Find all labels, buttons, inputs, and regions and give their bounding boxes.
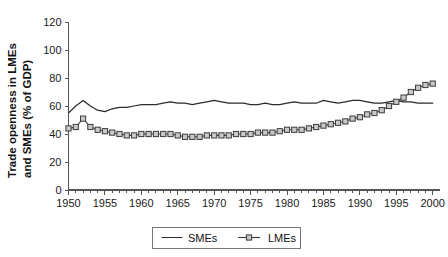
lme-data-marker (401, 95, 406, 100)
x-tick-label: 1985 (311, 197, 335, 209)
chart-axes (69, 22, 441, 190)
lme-data-marker (168, 131, 173, 136)
lme-data-marker (212, 133, 217, 138)
chart-figure: Trade openness in LMEs and SMEs (% of GD… (0, 0, 448, 257)
chart-ticks (65, 22, 433, 195)
lme-data-marker (416, 85, 421, 90)
legend-label-lmes: LMEs (268, 232, 297, 244)
x-tick-label: 1975 (238, 197, 262, 209)
lme-data-marker (394, 99, 399, 104)
x-tick-label: 1960 (129, 197, 153, 209)
lme-data-marker (226, 133, 231, 138)
lme-data-marker (241, 131, 246, 136)
x-tick-label: 1970 (202, 197, 226, 209)
lme-data-marker (284, 127, 289, 132)
lme-data-marker (263, 130, 268, 135)
lme-data-marker (66, 126, 71, 131)
lme-data-marker (379, 108, 384, 113)
lme-data-marker (277, 129, 282, 134)
lme-data-marker (292, 127, 297, 132)
series-line-lmes (69, 84, 433, 137)
lme-data-marker (153, 131, 158, 136)
lme-data-marker (95, 127, 100, 132)
x-tick-label: 1955 (93, 197, 117, 209)
y-axis-label-group: Trade openness in LMEs and SMEs (% of GD… (6, 43, 33, 178)
lme-data-marker (314, 124, 319, 129)
lme-data-marker (190, 134, 195, 139)
lme-data-marker (255, 130, 260, 135)
x-tick-label: 1980 (275, 197, 299, 209)
lme-data-marker (423, 82, 428, 87)
lme-data-marker (197, 134, 202, 139)
y-tick-label: 60 (49, 100, 61, 112)
y-tick-label: 120 (43, 16, 61, 28)
lme-data-marker (430, 81, 435, 86)
lme-data-marker (365, 112, 370, 117)
x-tick-label: 1950 (56, 197, 80, 209)
lme-data-marker (110, 130, 115, 135)
lme-data-marker (124, 133, 129, 138)
lme-data-marker (117, 131, 122, 136)
x-tick-label: 1990 (348, 197, 372, 209)
y-tick-label: 40 (49, 128, 61, 140)
y-tick-label: 0 (55, 184, 61, 196)
lme-data-marker (270, 130, 275, 135)
lme-data-marker (372, 110, 377, 115)
lme-data-marker (350, 116, 355, 121)
lme-data-marker (321, 123, 326, 128)
lme-data-marker (248, 131, 253, 136)
lme-data-marker (386, 103, 391, 108)
lme-data-marker (204, 133, 209, 138)
lme-data-marker (299, 127, 304, 132)
x-tick-label: 2000 (420, 197, 444, 209)
lme-data-marker (102, 129, 107, 134)
lme-data-marker (408, 89, 413, 94)
lme-data-marker (357, 115, 362, 120)
x-tick-label: 1965 (166, 197, 190, 209)
lme-data-marker (73, 124, 78, 129)
lme-data-marker (233, 131, 238, 136)
lme-data-marker (146, 131, 151, 136)
lme-data-marker (182, 134, 187, 139)
y-tick-label: 20 (49, 156, 61, 168)
chart-plot-area (66, 81, 435, 139)
lme-data-marker (175, 133, 180, 138)
y-tick-label: 100 (43, 44, 61, 56)
lme-data-marker (131, 133, 136, 138)
legend-swatch-lmes-marker (246, 235, 251, 240)
lme-data-marker (335, 120, 340, 125)
y-axis-label-line-2: and SMEs (% of GDP) (21, 60, 33, 178)
lme-data-marker (161, 131, 166, 136)
lme-data-marker (343, 119, 348, 124)
lme-data-marker (306, 126, 311, 131)
chart-legend: SMEsLMEs (152, 227, 300, 248)
y-tick-label: 80 (49, 72, 61, 84)
lme-data-marker (80, 116, 85, 121)
trade-openness-line-chart: Trade openness in LMEs and SMEs (% of GD… (0, 0, 448, 257)
legend-label-smes: SMEs (188, 232, 218, 244)
x-tick-label: 1995 (384, 197, 408, 209)
lme-data-marker (139, 131, 144, 136)
lme-data-marker (328, 122, 333, 127)
lme-data-marker (219, 133, 224, 138)
y-axis-label-line-1: Trade openness in LMEs (6, 43, 18, 178)
lme-data-marker (88, 124, 93, 129)
